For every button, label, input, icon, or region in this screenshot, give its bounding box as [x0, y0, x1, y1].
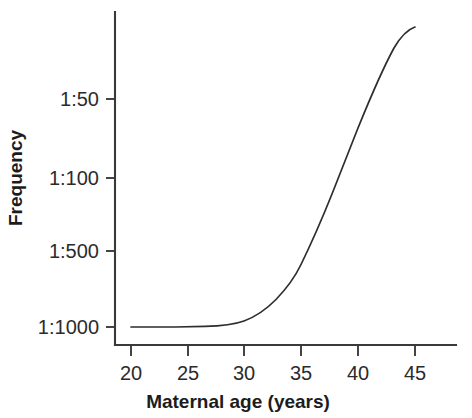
chart-figure: 1:50 1:100 1:500 1:1000 20 25 30 35 40 4…	[0, 0, 472, 418]
x-tick-label-35: 35	[290, 362, 312, 384]
x-tick-label-25: 25	[177, 362, 199, 384]
x-axis-title: Maternal age (years)	[146, 391, 330, 412]
frequency-curve	[131, 27, 415, 327]
chart-canvas: 1:50 1:100 1:500 1:1000 20 25 30 35 40 4…	[0, 0, 472, 418]
x-tick-label-40: 40	[347, 362, 369, 384]
x-tick-label-45: 45	[404, 362, 426, 384]
y-tick-label-1-500: 1:500	[49, 240, 99, 262]
x-tick-label-30: 30	[233, 362, 255, 384]
y-axis-title: Frequency	[5, 130, 26, 227]
y-tick-label-1-100: 1:100	[49, 167, 99, 189]
x-tick-label-20: 20	[120, 362, 142, 384]
y-tick-label-1-50: 1:50	[60, 88, 99, 110]
y-tick-label-1-1000: 1:1000	[38, 316, 99, 338]
